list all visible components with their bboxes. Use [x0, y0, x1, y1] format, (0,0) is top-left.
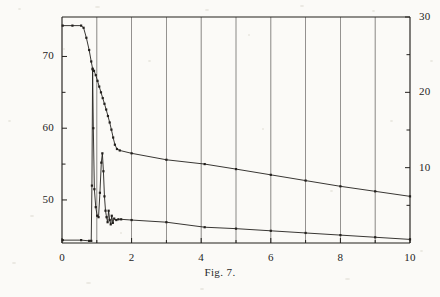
- y-axis-right-tick-20: 20: [419, 86, 440, 97]
- x-axis-tick-2: 2: [116, 252, 148, 263]
- scan-speck: [18, 8, 21, 10]
- scan-speck: [300, 5, 304, 7]
- gridlines-group: [97, 17, 375, 243]
- x-axis-tick-4: 4: [185, 252, 217, 263]
- x-axis-tick-8: 8: [324, 252, 356, 263]
- x-axis-tick-10: 10: [394, 252, 426, 263]
- scan-speck: [372, 10, 375, 12]
- scan-speck: [148, 60, 151, 62]
- x-axis-tick-6: 6: [255, 252, 287, 263]
- scan-speck: [205, 9, 209, 11]
- figure-container: 5060701020300246810 Fig. 7.: [0, 0, 440, 297]
- scan-speck: [12, 262, 16, 264]
- scan-speck: [262, 128, 264, 130]
- scan-speck: [95, 6, 100, 8]
- y-axis-left-tick-50: 50: [22, 194, 54, 205]
- y-axis-right-tick-30: 30: [419, 11, 440, 22]
- y-axis-left-tick-60: 60: [22, 122, 54, 133]
- y-axis-left-tick-70: 70: [22, 50, 54, 61]
- scan-speck: [430, 60, 433, 62]
- scan-speck: [330, 190, 333, 192]
- scan-speck: [248, 34, 250, 36]
- scan-speck: [390, 120, 393, 122]
- x-axis-tick-0: 0: [46, 252, 78, 263]
- y-axis-right-tick-10: 10: [419, 162, 440, 173]
- scan-speck: [63, 48, 65, 50]
- scan-speck: [120, 232, 122, 234]
- figure-caption: Fig. 7.: [0, 266, 440, 278]
- scan-speck: [30, 215, 34, 217]
- scan-speck: [345, 278, 350, 280]
- scan-speck: [200, 288, 204, 290]
- scan-speck: [86, 282, 91, 284]
- scan-speck: [420, 250, 423, 252]
- scan-speck: [8, 120, 11, 122]
